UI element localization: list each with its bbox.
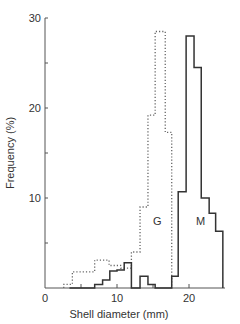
x-tick-label: 10 bbox=[111, 292, 123, 304]
y-tick-label: 30 bbox=[29, 12, 41, 24]
series-label-g: G bbox=[153, 215, 162, 227]
axes: 10203001020Shell diameter (mm)Frequency … bbox=[4, 12, 225, 320]
series-g-dotted bbox=[64, 32, 172, 289]
y-axis-label: Frequency (%) bbox=[4, 117, 16, 189]
x-axis-label: Shell diameter (mm) bbox=[69, 308, 168, 320]
series-label-m: M bbox=[196, 215, 205, 227]
series-g-path bbox=[64, 32, 172, 289]
histogram-chart: 10203001020Shell diameter (mm)Frequency … bbox=[0, 0, 240, 324]
y-tick-label: 10 bbox=[29, 192, 41, 204]
y-tick-label: 20 bbox=[29, 102, 41, 114]
x-tick-label: 0 bbox=[42, 292, 48, 304]
x-tick-label: 20 bbox=[183, 292, 195, 304]
labels: GM bbox=[153, 215, 205, 227]
series-m-path bbox=[69, 36, 222, 288]
series-m-solid bbox=[69, 36, 222, 288]
